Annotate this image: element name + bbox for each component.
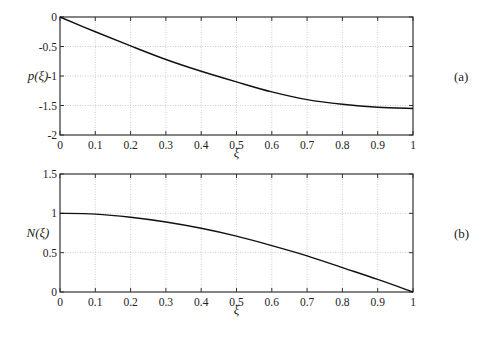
x-tick-label: 0.2: [123, 296, 138, 308]
x-tick-label: 0.8: [335, 139, 350, 151]
x-tick-label: 0.7: [300, 296, 315, 308]
x-tick-label: 0.4: [194, 296, 209, 308]
panel-label: (a): [454, 69, 468, 84]
y-tick-label: 0.5: [43, 247, 58, 259]
panel-label: (b): [454, 226, 469, 241]
x-tick-label: 0.3: [159, 296, 174, 308]
y-tick-label: 1: [51, 207, 57, 219]
y-axis-label: p(ξ): [27, 68, 49, 83]
y-tick-label: 0: [51, 286, 57, 298]
x-tick-label: 0.1: [88, 139, 103, 151]
y-tick-label: -2: [47, 129, 57, 141]
y-tick-label: -1.5: [39, 100, 57, 112]
chart-panel-b: 00.10.20.30.40.50.60.70.80.911.510.50ξN(…: [26, 168, 470, 317]
x-axis-label: ξ: [234, 145, 240, 160]
figure: 00.10.20.30.40.50.60.70.80.910-0.5-1-1.5…: [0, 0, 499, 337]
x-tick-label: 0.4: [194, 139, 209, 151]
x-tick-label: 0.9: [371, 296, 386, 308]
tick-labels: 00.10.20.30.40.50.60.70.80.911.510.50: [43, 168, 417, 308]
x-tick-label: 1: [410, 296, 416, 308]
x-tick-label: 0.8: [335, 296, 350, 308]
chart-panel-a: 00.10.20.30.40.50.60.70.80.910-0.5-1-1.5…: [27, 11, 469, 160]
y-axis-label: N(ξ): [26, 225, 50, 240]
x-tick-label: 0.6: [265, 296, 280, 308]
x-tick-label: 0.7: [300, 139, 315, 151]
y-tick-label: 1.5: [43, 168, 58, 180]
y-tick-label: -1: [47, 70, 57, 82]
grid: [60, 17, 413, 135]
y-tick-label: -0.5: [39, 41, 57, 53]
x-tick-label: 0.2: [123, 139, 138, 151]
y-tick-label: 0: [51, 11, 57, 23]
x-tick-label: 0: [57, 139, 63, 151]
x-axis-label: ξ: [234, 302, 240, 317]
x-tick-label: 0.1: [88, 296, 103, 308]
x-tick-label: 0.9: [371, 139, 386, 151]
x-tick-label: 0.3: [159, 139, 174, 151]
x-tick-label: 1: [410, 139, 416, 151]
grid: [60, 174, 413, 292]
x-tick-label: 0: [57, 296, 63, 308]
x-tick-label: 0.6: [265, 139, 280, 151]
